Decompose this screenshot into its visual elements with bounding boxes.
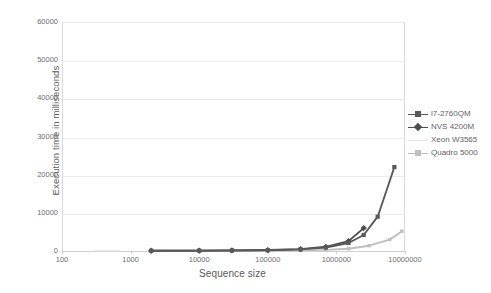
chart-container: Execution time in milliseconds 600005000… xyxy=(0,0,491,293)
legend-marker xyxy=(415,111,421,117)
legend-label: i7-2760QM xyxy=(431,109,471,119)
series-i7-2760qm xyxy=(149,165,396,253)
legend-label: Xeon W3565 xyxy=(431,135,477,145)
series-line xyxy=(151,167,394,251)
data-point-marker xyxy=(230,248,234,252)
legend-key-swatch xyxy=(408,122,428,132)
legend-marker xyxy=(415,150,421,156)
data-point-marker xyxy=(197,249,201,253)
legend-item[interactable]: i7-2760QM xyxy=(408,108,490,120)
data-point-marker xyxy=(298,247,302,251)
legend-line xyxy=(408,140,428,142)
legend-item[interactable]: NVS 4200M xyxy=(408,121,490,133)
legend-key-swatch xyxy=(408,109,428,119)
data-point-marker xyxy=(388,238,391,241)
legend-key-swatch xyxy=(408,135,428,145)
data-point-marker xyxy=(392,165,396,169)
data-point-marker xyxy=(347,247,350,250)
x-axis-title: Sequence size xyxy=(60,268,405,279)
legend-marker xyxy=(414,123,422,131)
data-point-marker xyxy=(367,244,370,247)
data-point-marker xyxy=(324,245,328,249)
data-point-marker xyxy=(149,249,153,253)
legend-item[interactable]: Xeon W3565 xyxy=(408,134,490,146)
data-point-marker xyxy=(362,233,366,237)
data-point-marker xyxy=(400,229,403,232)
data-point-marker xyxy=(376,215,380,219)
legend-item[interactable]: Quadro 5000 xyxy=(408,147,490,159)
legend-label: Quadro 5000 xyxy=(431,148,478,158)
legend-key-swatch xyxy=(408,148,428,158)
legend-label: NVS 4200M xyxy=(431,122,474,132)
data-point-marker xyxy=(266,248,270,252)
chart-legend: i7-2760QMNVS 4200MXeon W3565Quadro 5000 xyxy=(408,108,490,160)
data-point-marker xyxy=(346,241,350,245)
